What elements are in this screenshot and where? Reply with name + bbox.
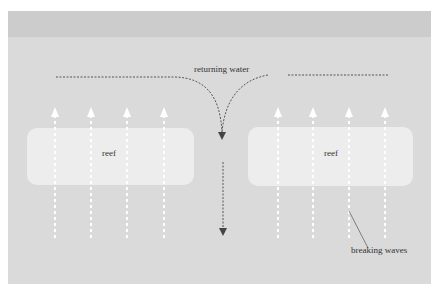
reef-right-label: reef [324, 148, 338, 158]
returning-water-label: returning water [194, 64, 249, 74]
up-arrow-icons [51, 107, 389, 117]
callout-line [349, 211, 368, 248]
breaking-waves-label: breaking waves [351, 245, 407, 255]
reef-left-label: reef [102, 148, 116, 158]
